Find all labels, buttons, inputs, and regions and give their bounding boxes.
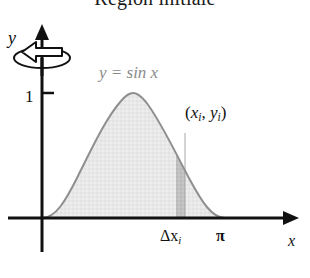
- diagram-canvas: [0, 0, 310, 278]
- delta-x-symbol: Δx: [160, 227, 178, 244]
- x-axis-tick-label-pi: π: [216, 228, 225, 244]
- point-paren-close: ): [221, 103, 227, 122]
- y-axis-label: y: [8, 29, 16, 47]
- delta-x-label: Δxi: [160, 228, 181, 246]
- y-axis-arrowhead: [35, 24, 49, 40]
- point-comma: ,: [201, 103, 210, 122]
- y-axis-tick-label-one: 1: [25, 88, 34, 105]
- x-axis-arrowhead: [283, 211, 299, 225]
- curve-equation-label: y = sin x: [99, 64, 158, 81]
- region-initiale-figure: Région initiale: [0, 0, 310, 278]
- x-axis-label: x: [288, 233, 295, 249]
- point-coordinate-label: (xi, yi): [185, 104, 226, 124]
- delta-x-subscript: i: [178, 234, 181, 246]
